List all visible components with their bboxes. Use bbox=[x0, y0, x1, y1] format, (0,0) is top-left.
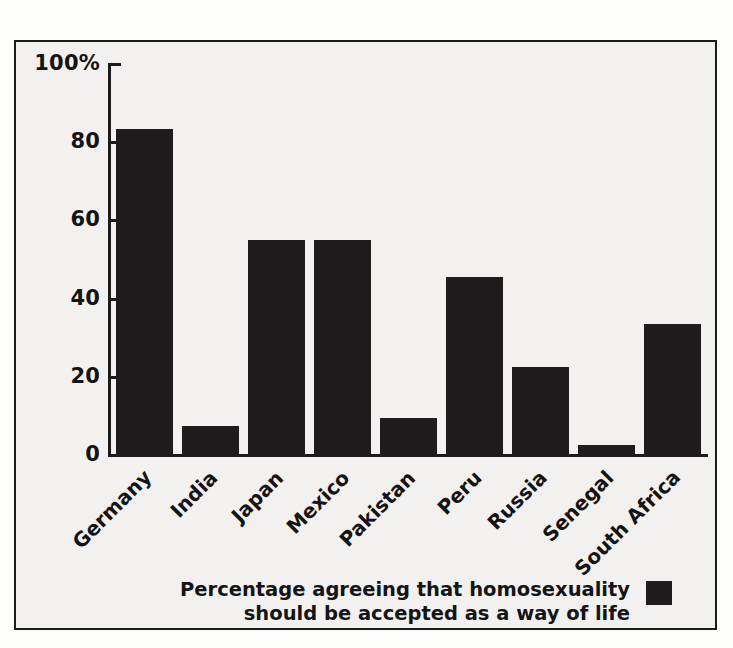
x-label-india: India bbox=[167, 467, 221, 521]
bar-peru bbox=[446, 277, 503, 455]
y-tick-label-wrap: 80 bbox=[0, 131, 100, 153]
y-tick-label: 80 bbox=[0, 131, 100, 152]
y-axis-line bbox=[108, 64, 111, 457]
y-tick-label-wrap: 40 bbox=[0, 288, 100, 310]
bar-south-africa bbox=[644, 324, 701, 455]
legend-label: Percentage agreeing that homosexuality s… bbox=[180, 578, 630, 627]
bar-japan bbox=[248, 240, 305, 455]
plot-area: 020406080100% GermanyIndiaJapanMexicoPak… bbox=[0, 0, 733, 648]
y-tick-label-wrap: 100% bbox=[0, 53, 100, 75]
y-tick-100% bbox=[108, 63, 121, 66]
y-tick-label: 60 bbox=[0, 209, 100, 230]
bar-india bbox=[182, 426, 239, 455]
bar-germany bbox=[116, 129, 173, 455]
y-tick-label-wrap: 60 bbox=[0, 209, 100, 231]
legend-label-line-1: Percentage agreeing that homosexuality bbox=[180, 578, 630, 602]
legend-label-line-2: should be accepted as a way of life bbox=[180, 602, 630, 626]
y-tick-label: 20 bbox=[0, 366, 100, 387]
y-tick-label: 0 bbox=[0, 444, 100, 465]
y-tick-label: 40 bbox=[0, 288, 100, 309]
legend-color-swatch bbox=[646, 581, 672, 605]
y-tick-label-wrap: 20 bbox=[0, 366, 100, 388]
legend: Percentage agreeing that homosexuality s… bbox=[180, 578, 685, 626]
x-label-russia: Russia bbox=[484, 467, 550, 533]
bar-senegal bbox=[578, 445, 635, 455]
x-label-germany: Germany bbox=[69, 466, 155, 552]
y-tick-label: 100% bbox=[0, 53, 100, 74]
bar-mexico bbox=[314, 240, 371, 455]
x-label-peru: Peru bbox=[434, 467, 485, 518]
y-tick-label-wrap: 0 bbox=[0, 444, 100, 466]
x-label-japan: Japan bbox=[228, 467, 287, 526]
bar-russia bbox=[512, 367, 569, 455]
figure: 020406080100% GermanyIndiaJapanMexicoPak… bbox=[0, 0, 733, 648]
bar-pakistan bbox=[380, 418, 437, 455]
